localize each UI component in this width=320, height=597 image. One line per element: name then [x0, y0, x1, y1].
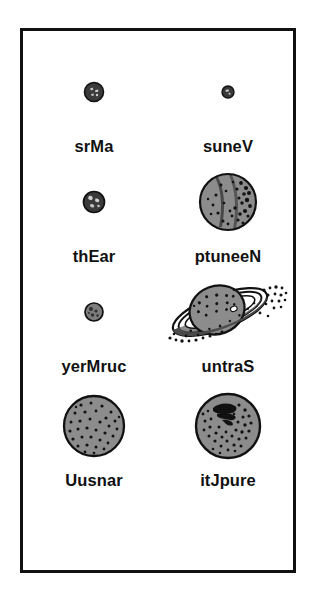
planet-cell-venus[interactable]: suneV — [159, 49, 297, 156]
planet-label: srMa — [25, 136, 163, 156]
planet-cell-mercury[interactable]: yerMruc — [25, 269, 163, 376]
jupiter-planet-icon — [159, 383, 297, 469]
planet-label: yerMruc — [25, 356, 163, 376]
mercury-planet-icon — [25, 269, 163, 355]
planet-label: Uusnar — [25, 470, 163, 490]
planet-cell-saturn[interactable]: untraS — [159, 269, 297, 376]
saturn-planet-icon — [159, 269, 297, 355]
planet-label: itJpure — [159, 470, 297, 490]
planet-label: untraS — [159, 356, 297, 376]
planet-cell-uranus[interactable]: Uusnar — [25, 383, 163, 490]
planet-grid: srMa suneV — [23, 31, 293, 570]
planet-label: ptuneeN — [159, 246, 297, 266]
earth-planet-icon — [25, 159, 163, 245]
planet-cell-neptune[interactable]: ptuneeN — [159, 159, 297, 266]
planet-cell-mars[interactable]: srMa — [25, 49, 163, 156]
uranus-planet-icon — [25, 383, 163, 469]
neptune-planet-icon — [159, 159, 297, 245]
planet-label: suneV — [159, 136, 297, 156]
poster-frame: srMa suneV — [20, 28, 296, 573]
planet-cell-earth[interactable]: thEar — [25, 159, 163, 266]
planet-cell-jupiter[interactable]: itJpure — [159, 383, 297, 490]
planet-label: thEar — [25, 246, 163, 266]
mars-planet-icon — [25, 49, 163, 135]
venus-planet-icon — [159, 49, 297, 135]
